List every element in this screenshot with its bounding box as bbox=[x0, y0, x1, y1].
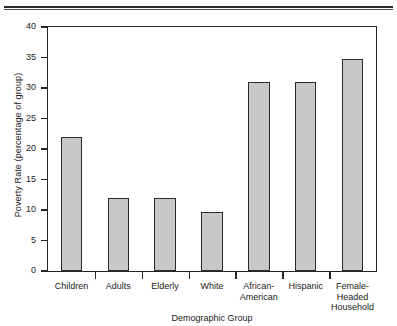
x-axis-category-label: Female-HeadedHousehold bbox=[329, 281, 376, 313]
bar bbox=[201, 212, 223, 271]
bar bbox=[154, 198, 176, 271]
y-axis-tick-label: 20 bbox=[0, 143, 36, 153]
y-axis-tick-mark bbox=[41, 148, 48, 149]
y-axis-tick-mark bbox=[41, 270, 48, 271]
y-axis-tick-label: 30 bbox=[0, 82, 36, 92]
x-axis-category-label: Hispanic bbox=[282, 281, 329, 292]
bar bbox=[61, 137, 83, 271]
y-axis-tick-label: 5 bbox=[0, 235, 36, 245]
y-axis-tick-mark bbox=[41, 179, 48, 180]
bar bbox=[295, 82, 317, 271]
y-axis-tick-mark bbox=[41, 87, 48, 88]
y-axis-tick-label: 10 bbox=[0, 204, 36, 214]
y-axis-tick-label: 25 bbox=[0, 113, 36, 123]
x-axis-tick-mark bbox=[189, 272, 190, 279]
x-axis-tick-mark bbox=[95, 272, 96, 279]
x-axis-category-label: White bbox=[189, 281, 236, 292]
x-axis-tick-mark bbox=[235, 272, 236, 279]
y-axis-tick-label: 0 bbox=[0, 265, 36, 275]
bar bbox=[108, 198, 130, 271]
y-axis-tick-mark bbox=[41, 26, 48, 27]
bar bbox=[342, 59, 364, 271]
x-axis-tick-mark bbox=[329, 272, 330, 279]
y-axis-tick-label: 15 bbox=[0, 174, 36, 184]
y-axis-tick-mark bbox=[41, 118, 48, 119]
x-axis-title: Demographic Group bbox=[47, 313, 377, 323]
x-axis-tick-mark bbox=[142, 272, 143, 279]
y-axis-tick-mark bbox=[41, 57, 48, 58]
x-axis-category-label: African-American bbox=[235, 281, 282, 302]
x-axis-category-label: Elderly bbox=[142, 281, 189, 292]
y-axis-tick-label: 40 bbox=[0, 21, 36, 31]
y-axis-tick-label: 35 bbox=[0, 52, 36, 62]
x-axis-category-label: Adults bbox=[95, 281, 142, 292]
bar bbox=[248, 82, 270, 271]
y-axis-tick-mark bbox=[41, 209, 48, 210]
rule-line-thick bbox=[4, 6, 393, 8]
x-axis-tick-mark bbox=[282, 272, 283, 279]
bars-layer bbox=[48, 27, 376, 271]
y-axis-tick-mark bbox=[41, 240, 48, 241]
x-axis-category-label: Children bbox=[48, 281, 95, 292]
bar-chart-figure: Poverty Rate (percentage of group) 05101… bbox=[0, 10, 397, 326]
